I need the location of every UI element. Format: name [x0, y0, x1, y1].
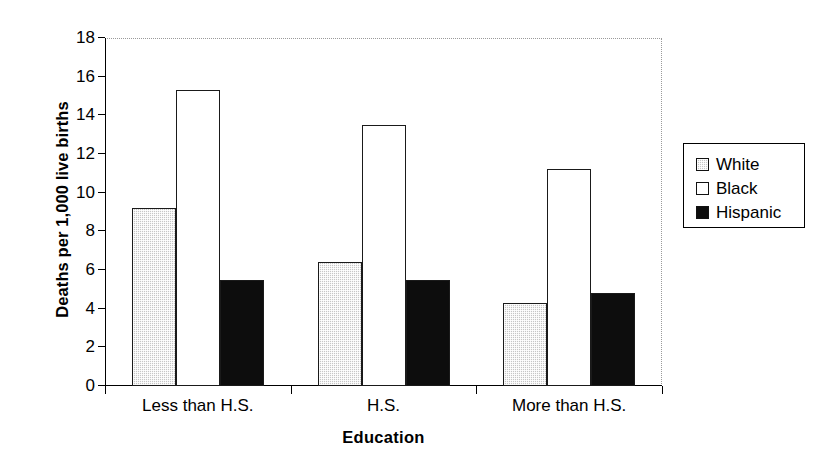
y-tick: [98, 76, 105, 77]
y-tick-label: 16: [49, 68, 95, 85]
x-category-label: More than H.S.: [459, 396, 679, 416]
x-tick: [662, 386, 663, 394]
y-tick: [98, 308, 105, 309]
y-tick: [98, 192, 105, 193]
y-axis-line: [105, 38, 106, 386]
y-tick-label: 0: [49, 377, 95, 394]
bar-chart: Deaths per 1,000 live births 02468101214…: [0, 0, 833, 465]
y-tick-label: 18: [49, 29, 95, 46]
x-axis-title: Education: [105, 428, 662, 447]
y-tick-label: 12: [49, 145, 95, 162]
bar-hispanic-0: [220, 280, 264, 386]
legend-swatch-icon: [696, 158, 709, 171]
y-tick-label: 14: [49, 106, 95, 123]
bar-white-1: [318, 262, 362, 386]
y-tick-label: 6: [49, 261, 95, 278]
y-tick-label: 10: [49, 184, 95, 201]
x-tick: [105, 386, 106, 394]
bar-hispanic-2: [591, 293, 635, 386]
plot-frame-top: [105, 38, 662, 39]
x-tick: [291, 386, 292, 394]
legend-label: Black: [716, 180, 758, 197]
y-tick: [98, 385, 105, 386]
y-tick: [98, 37, 105, 38]
legend-label: Hispanic: [716, 204, 781, 221]
y-tick-label: 8: [49, 222, 95, 239]
y-tick: [98, 269, 105, 270]
legend-item-black: Black: [696, 176, 804, 200]
plot-frame-right: [661, 38, 662, 386]
x-tick: [476, 386, 477, 394]
bar-black-1: [362, 125, 406, 386]
y-tick-label: 2: [49, 338, 95, 355]
y-tick: [98, 346, 105, 347]
legend-swatch-icon: [696, 182, 709, 195]
y-tick-label: 4: [49, 300, 95, 317]
legend-swatch-icon: [696, 206, 709, 219]
bar-black-0: [176, 90, 220, 386]
bar-white-2: [503, 303, 547, 386]
bar-black-2: [547, 169, 591, 387]
y-tick: [98, 114, 105, 115]
legend-item-white: White: [696, 152, 804, 176]
bar-hispanic-1: [406, 280, 450, 386]
bar-white-0: [132, 208, 176, 386]
legend: WhiteBlackHispanic: [683, 143, 805, 228]
y-tick: [98, 230, 105, 231]
y-tick: [98, 153, 105, 154]
legend-item-hispanic: Hispanic: [696, 200, 804, 224]
legend-label: White: [716, 156, 759, 173]
plot-area: 024681012141618: [105, 38, 662, 386]
